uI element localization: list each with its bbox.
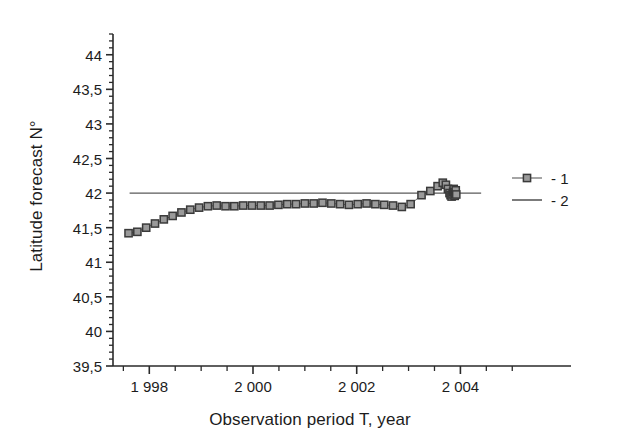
y-tick-label: 39,5	[40, 358, 102, 375]
data-point	[337, 201, 344, 208]
y-tick-label: 40	[40, 323, 102, 340]
data-point	[363, 200, 370, 207]
data-point	[381, 201, 388, 208]
legend-label-2: - 2	[551, 192, 569, 209]
x-tick-label: 1 998	[131, 378, 169, 395]
legend-symbols	[512, 174, 542, 200]
data-point	[292, 201, 299, 208]
data-point	[248, 202, 255, 209]
y-tick-label: 43,5	[40, 81, 102, 98]
y-tick-label: 42	[40, 185, 102, 202]
legend-label-1: - 1	[551, 170, 569, 187]
data-point	[195, 204, 202, 211]
data-point	[345, 201, 352, 208]
y-tick-label: 41	[40, 254, 102, 271]
y-tick-label: 41,5	[40, 219, 102, 236]
data-point	[204, 203, 211, 210]
x-axis-title: Observation period T, year	[120, 410, 500, 430]
data-point	[213, 202, 220, 209]
data-point	[266, 202, 273, 209]
data-point	[143, 224, 150, 231]
legend-marker-square	[523, 174, 530, 181]
y-tick-label: 42,5	[40, 150, 102, 167]
data-point	[257, 202, 264, 209]
x-tick-label: 2 000	[234, 378, 272, 395]
data-point	[301, 200, 308, 207]
y-tick-label: 44	[40, 46, 102, 63]
data-point	[151, 220, 158, 227]
data-point	[240, 202, 247, 209]
data-point	[319, 199, 326, 206]
data-point	[231, 203, 238, 210]
chart-figure: Latitude forecast N° Observation period …	[0, 0, 627, 448]
data-point	[275, 201, 282, 208]
y-tick-label: 40,5	[40, 288, 102, 305]
data-point	[222, 203, 229, 210]
y-tick-label: 43	[40, 115, 102, 132]
data-series-markers	[125, 179, 460, 237]
data-point	[427, 187, 434, 194]
data-point	[453, 191, 460, 198]
data-point	[134, 228, 141, 235]
data-point	[328, 200, 335, 207]
data-point	[418, 192, 425, 199]
data-point	[284, 201, 291, 208]
data-point	[310, 200, 317, 207]
data-point	[187, 206, 194, 213]
data-point	[407, 201, 414, 208]
data-point	[178, 209, 185, 216]
data-point	[389, 202, 396, 209]
data-point	[160, 216, 167, 223]
x-tick-label: 2 004	[442, 378, 480, 395]
data-point	[125, 230, 132, 237]
data-point	[372, 201, 379, 208]
data-point	[169, 212, 176, 219]
data-point	[354, 201, 361, 208]
data-point	[398, 203, 405, 210]
x-tick-label: 2 002	[338, 378, 376, 395]
